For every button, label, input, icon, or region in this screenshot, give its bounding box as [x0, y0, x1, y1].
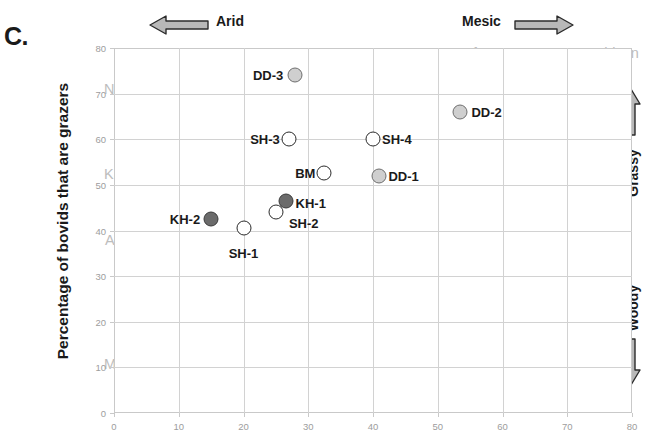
data-point-sh-1[interactable]: [236, 221, 251, 236]
gridline-horizontal: [114, 231, 632, 232]
x-tick-label: 0: [111, 421, 116, 432]
data-point-label-dd-3: DD-3: [253, 68, 283, 83]
gridline-horizontal: [114, 322, 632, 323]
x-tickmark: [373, 413, 374, 417]
y-tick-label: 10: [80, 362, 106, 373]
data-point-dd-2[interactable]: [453, 104, 468, 119]
data-point-sh-4[interactable]: [366, 132, 381, 147]
data-point-sh-2[interactable]: [268, 205, 283, 220]
y-tickmark: [110, 185, 114, 186]
data-point-dd-3[interactable]: [288, 68, 303, 83]
y-tickmark: [110, 94, 114, 95]
y-tick-label: 20: [80, 316, 106, 327]
y-axis-title: Percentage of bovids that are grazers: [54, 56, 72, 386]
data-point-label-sh-1: SH-1: [229, 246, 259, 261]
panel-letter: C.: [4, 22, 28, 51]
x-tickmark: [179, 413, 180, 417]
data-point-kh-2[interactable]: [204, 212, 219, 227]
data-point-bm[interactable]: [317, 166, 332, 181]
gridline-horizontal: [114, 94, 632, 95]
y-tick-label: 80: [80, 43, 106, 54]
x-tickmark: [438, 413, 439, 417]
y-tickmark: [110, 139, 114, 140]
x-tick-label: 80: [627, 421, 638, 432]
x-tickmark: [308, 413, 309, 417]
data-point-sh-3[interactable]: [281, 132, 296, 147]
y-tick-label: 40: [80, 225, 106, 236]
y-tickmark: [110, 48, 114, 49]
mesic-arrow-icon: [513, 14, 575, 36]
x-tickmark: [503, 413, 504, 417]
y-tick-label: 50: [80, 179, 106, 190]
data-point-label-kh-1: KH-1: [296, 195, 326, 210]
x-tickmark: [114, 413, 115, 417]
y-tick-label: 0: [80, 408, 106, 419]
x-tickmark: [567, 413, 568, 417]
data-point-label-dd-2: DD-2: [471, 104, 501, 119]
y-tickmark: [110, 322, 114, 323]
data-point-label-sh-2: SH-2: [289, 216, 319, 231]
figure-panel-c: C. Percentage of bovids that are grazers…: [0, 0, 651, 439]
x-tickmark: [632, 413, 633, 417]
gridline-horizontal: [114, 367, 632, 368]
y-tickmark: [110, 276, 114, 277]
x-tick-label: 40: [368, 421, 379, 432]
x-tick-label: 70: [562, 421, 573, 432]
x-tickmark: [244, 413, 245, 417]
y-tick-label: 30: [80, 271, 106, 282]
data-point-label-sh-3: SH-3: [250, 132, 280, 147]
data-point-label-kh-2: KH-2: [170, 212, 200, 227]
y-tickmark: [110, 413, 114, 414]
arid-arrow-icon: [148, 14, 210, 36]
arid-label: Arid: [216, 13, 244, 29]
y-tickmark: [110, 367, 114, 368]
x-tick-label: 10: [173, 421, 184, 432]
y-tickmark: [110, 231, 114, 232]
x-tick-label: 20: [238, 421, 249, 432]
y-tick-label: 70: [80, 88, 106, 99]
gridline-horizontal: [114, 185, 632, 186]
data-point-label-dd-1: DD-1: [388, 168, 418, 183]
data-point-label-bm: BM: [295, 166, 315, 181]
x-tick-label: 30: [303, 421, 314, 432]
x-tick-label: 60: [497, 421, 508, 432]
plot-area: DD-3DD-2SH-3SH-4BMDD-1KH-1SH-2KH-2SH-1: [114, 48, 632, 413]
data-point-dd-1[interactable]: [372, 168, 387, 183]
data-point-label-sh-4: SH-4: [382, 132, 412, 147]
x-tick-label: 50: [432, 421, 443, 432]
mesic-label: Mesic: [462, 13, 501, 29]
gridline-horizontal: [114, 276, 632, 277]
y-tick-label: 60: [80, 134, 106, 145]
